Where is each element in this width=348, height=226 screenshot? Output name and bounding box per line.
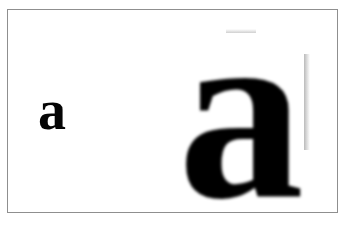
magnified-glyph-container: a [146,12,336,212]
small-serif-a-glyph: a [29,82,75,138]
figure-root: a a [0,0,348,226]
magnified-serif-a-glyph: a [146,12,336,212]
illustration-panel: a a [7,9,338,213]
